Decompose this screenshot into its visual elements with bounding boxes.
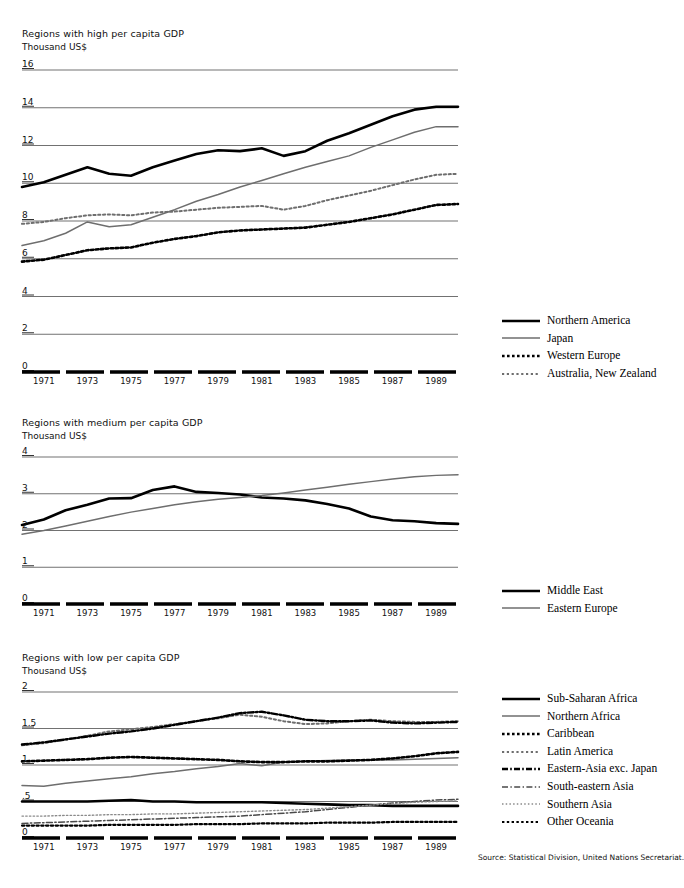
x-axis-tick-label: 1989 <box>414 842 458 852</box>
y-axis-tick-label: 2 <box>22 681 28 691</box>
y-axis-tick-label: 16 <box>22 59 33 69</box>
y-axis-tick-label: 10 <box>22 172 33 182</box>
x-axis-tick-label: 1979 <box>196 608 240 618</box>
source-note: Source: Statistical Division, United Nat… <box>478 853 684 862</box>
legend-key-swatch <box>502 781 540 793</box>
series-line <box>22 715 458 746</box>
legend-key-swatch <box>502 746 540 758</box>
x-axis-tick-label: 1979 <box>196 376 240 386</box>
y-axis-tick-label: 3 <box>22 483 28 493</box>
series-line <box>22 822 458 826</box>
legend-item-label: Sub-Saharan Africa <box>547 693 637 705</box>
x-axis-tick-label: 1977 <box>153 608 197 618</box>
legend-item-label: South-eastern Asia <box>547 781 634 793</box>
x-axis-tick-label: 1987 <box>371 376 415 386</box>
x-axis-tick-label: 1971 <box>22 376 66 386</box>
legend-key-swatch <box>502 710 540 722</box>
y-axis-tick-label: 1 <box>22 556 28 566</box>
legend-key-swatch <box>502 816 540 828</box>
x-axis-tick-label: 1975 <box>109 842 153 852</box>
x-axis-tick-label: 1987 <box>371 608 415 618</box>
y-axis-tick-label: 14 <box>22 97 33 107</box>
legend-item[interactable]: Caribbean <box>502 725 657 743</box>
x-axis-tick-label: 1983 <box>283 608 327 618</box>
x-axis-tick-label: 1975 <box>109 376 153 386</box>
x-axis-tick-label: 1977 <box>153 842 197 852</box>
x-axis-tick-label: 1985 <box>327 608 371 618</box>
x-axis-tick-label: 1981 <box>240 608 284 618</box>
x-axis-tick-label: 1975 <box>109 608 153 618</box>
y-axis-tick-label: 0 <box>22 593 28 603</box>
x-axis-tick-label: 1981 <box>240 842 284 852</box>
y-axis-tick-label: 1 <box>22 754 28 764</box>
x-axis-tick-label: 1989 <box>414 608 458 618</box>
x-axis-tick-label: 1987 <box>371 842 415 852</box>
legend-item[interactable]: Southern Asia <box>502 796 657 814</box>
legend-item[interactable]: Eastern-Asia exc. Japan <box>502 760 657 778</box>
y-axis-tick-label: 8 <box>22 210 28 220</box>
legend-item-label: Other Oceania <box>547 816 614 828</box>
y-axis-tick-label: 0 <box>22 361 28 371</box>
x-axis-tick-label: 1985 <box>327 376 371 386</box>
x-axis-tick-label: 1973 <box>65 376 109 386</box>
legend-item[interactable]: South-eastern Asia <box>502 778 657 796</box>
legend-item[interactable]: Other Oceania <box>502 813 657 831</box>
legend-item[interactable]: Sub-Saharan Africa <box>502 690 657 708</box>
legend-item-label: Southern Asia <box>547 799 612 811</box>
y-axis-tick-label: 2 <box>22 323 28 333</box>
x-axis-tick-label: 1989 <box>414 376 458 386</box>
legend-low: Sub-Saharan AfricaNorthern AfricaCaribbe… <box>502 690 657 831</box>
series-line <box>22 712 458 745</box>
x-axis-tick-label: 1973 <box>65 608 109 618</box>
y-axis-tick-label: 6 <box>22 248 28 258</box>
x-axis-tick-label: 1971 <box>22 608 66 618</box>
x-axis-tick-label: 1971 <box>22 842 66 852</box>
legend-item-label: Latin America <box>547 746 613 758</box>
legend-key-swatch <box>502 728 540 740</box>
legend-key-swatch <box>502 798 540 810</box>
y-axis-tick-label: 0 <box>22 827 28 837</box>
y-axis-tick-label: .5 <box>22 791 31 801</box>
y-axis-tick-label: 4 <box>22 446 28 456</box>
y-axis-tick-label: 4 <box>22 286 28 296</box>
y-axis-tick-label: 2 <box>22 520 28 530</box>
legend-item-label: Northern Africa <box>547 711 620 723</box>
x-axis-tick-label: 1973 <box>65 842 109 852</box>
x-axis-tick-label: 1983 <box>283 376 327 386</box>
legend-item-label: Caribbean <box>547 728 594 740</box>
y-axis-tick-label: 1.5 <box>22 718 36 728</box>
legend-key-swatch <box>502 693 540 705</box>
legend-key-swatch <box>502 763 540 775</box>
legend-item[interactable]: Northern Africa <box>502 708 657 726</box>
x-axis-tick-label: 1979 <box>196 842 240 852</box>
x-axis-tick-label: 1977 <box>153 376 197 386</box>
x-axis-tick-label: 1981 <box>240 376 284 386</box>
legend-item-label: Eastern-Asia exc. Japan <box>547 763 657 775</box>
x-axis-tick-label: 1985 <box>327 842 371 852</box>
legend-item[interactable]: Latin America <box>502 743 657 761</box>
y-axis-tick-label: 12 <box>22 135 33 145</box>
x-axis-tick-label: 1983 <box>283 842 327 852</box>
